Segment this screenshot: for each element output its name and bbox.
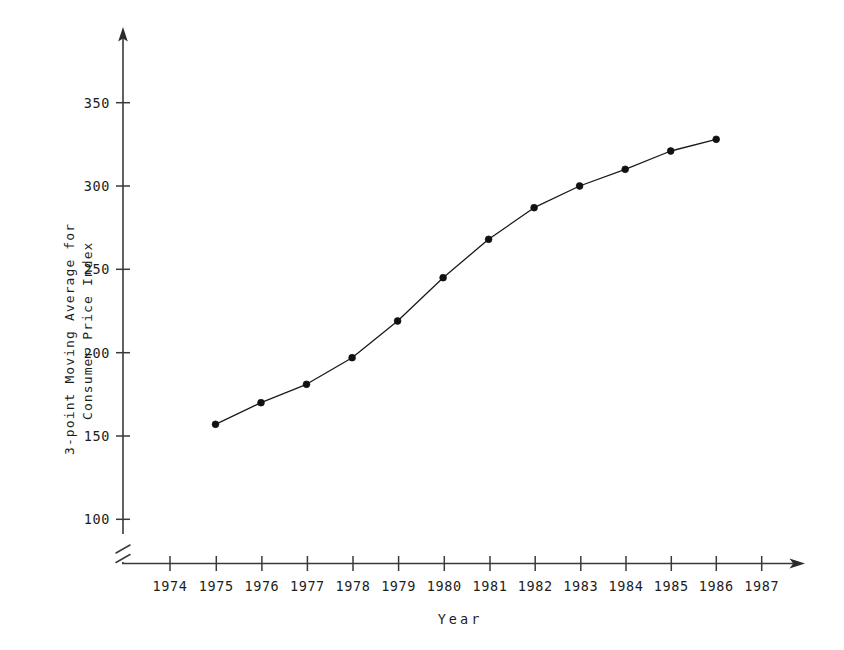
data-series-line: [216, 139, 717, 424]
data-point: [303, 381, 310, 388]
data-point: [212, 421, 219, 428]
y-tick-label: 250: [58, 261, 110, 277]
data-point: [349, 354, 356, 361]
x-tick-label: 1977: [290, 578, 325, 594]
data-point: [531, 204, 538, 211]
x-tick-label: 1974: [153, 578, 188, 594]
data-point: [713, 136, 720, 143]
x-tick-label: 1979: [381, 578, 416, 594]
data-markers: [212, 136, 719, 428]
y-tick-label: 200: [58, 345, 110, 361]
data-point: [258, 399, 265, 406]
x-tick-label: 1987: [744, 578, 779, 594]
data-point: [622, 166, 629, 173]
x-tick-label: 1985: [654, 578, 689, 594]
x-tick-label: 1984: [609, 578, 644, 594]
x-tick-label: 1981: [473, 578, 508, 594]
x-tick-label: 1986: [699, 578, 734, 594]
x-tick-label: 1978: [336, 578, 371, 594]
x-axis-title: Year: [438, 611, 483, 627]
x-tick-label: 1976: [244, 578, 279, 594]
y-tick-label: 350: [58, 95, 110, 111]
x-tick-label: 1975: [199, 578, 234, 594]
y-axis-break-icon: [116, 545, 130, 563]
chart-plot-area: [0, 0, 844, 650]
y-tick-label: 300: [58, 178, 110, 194]
data-point: [485, 236, 492, 243]
data-point: [440, 274, 447, 281]
x-tick-label: 1983: [563, 578, 598, 594]
x-tick-label: 1980: [427, 578, 462, 594]
data-point: [394, 318, 401, 325]
y-tick-label: 100: [58, 511, 110, 527]
chart-figure: 350 300 250 200 150 100 1974 1975 1976 1…: [0, 0, 844, 650]
data-point: [667, 148, 674, 155]
x-tick-label: 1982: [518, 578, 553, 594]
data-point: [576, 183, 583, 190]
y-tick-label: 150: [58, 428, 110, 444]
